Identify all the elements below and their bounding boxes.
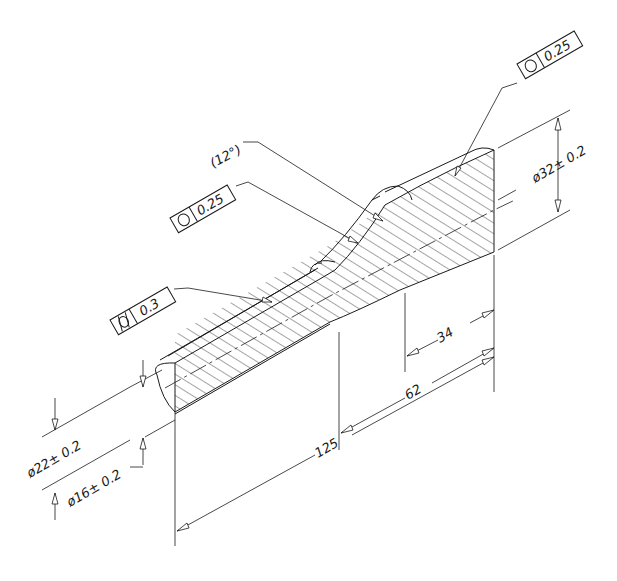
circularity-icon <box>523 58 539 74</box>
svg-text:62: 62 <box>402 381 424 402</box>
dim-left-diameters: ø22± 0.2 ø16± 0.2 <box>23 360 175 520</box>
section-hatch <box>175 150 494 412</box>
svg-text:(12°): (12°) <box>207 142 243 171</box>
fcf-middle: 0.25 <box>170 185 236 233</box>
svg-text:34: 34 <box>434 324 456 345</box>
angle-reference: (12°) <box>207 142 383 221</box>
fcf-left: 0.3 <box>110 287 176 335</box>
circularity-icon <box>176 212 192 228</box>
leader-middle <box>236 182 358 243</box>
part-body <box>155 148 515 414</box>
svg-text:ø22± 0.2: ø22± 0.2 <box>23 438 84 482</box>
technical-drawing: 0.25 ø32± 0.2 (12°) 0.25 0.3 <box>0 0 617 581</box>
dim-large-diameter: ø32± 0.2 <box>498 110 589 250</box>
fcf-top-right: 0.25 <box>517 31 583 79</box>
svg-text:125: 125 <box>312 435 341 460</box>
svg-text:0.3: 0.3 <box>136 296 161 319</box>
dim-overall-length: 125 <box>175 357 494 546</box>
